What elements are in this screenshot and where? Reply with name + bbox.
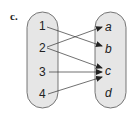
codomain-element-a: a <box>105 20 112 34</box>
codomain-element-c: c <box>105 64 111 78</box>
domain-element-2: 2 <box>39 41 46 55</box>
codomain-element-d: d <box>105 86 112 100</box>
domain-element-1: 1 <box>39 19 46 33</box>
domain-element-4: 4 <box>39 87 46 101</box>
mapping-diagram: 1 2 3 4 a b c d <box>0 0 131 113</box>
codomain-element-b: b <box>105 42 112 56</box>
domain-element-3: 3 <box>39 65 46 79</box>
